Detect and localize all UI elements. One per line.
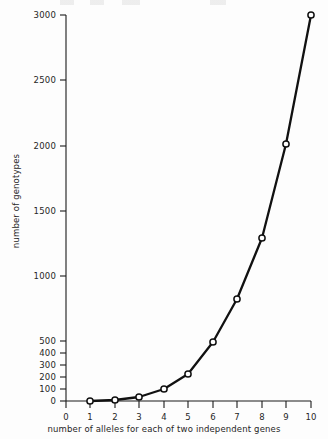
xtick-label-4: 4: [154, 412, 174, 422]
data-markers: [87, 12, 314, 404]
ytick-label-100: 100: [22, 384, 56, 394]
xtick-label-10: 10: [301, 412, 321, 422]
xtick-label-2: 2: [105, 412, 125, 422]
data-line: [90, 15, 311, 401]
chart-figure: 3000 2500 2000 1500 1000 500 400 300 200…: [0, 0, 328, 439]
ytick-label-2000: 2000: [22, 141, 56, 151]
xtick-label-6: 6: [203, 412, 223, 422]
ytick-label-200: 200: [22, 372, 56, 382]
ytick-label-400: 400: [22, 348, 56, 358]
xtick-label-1: 1: [80, 412, 100, 422]
ytick-label-2500: 2500: [22, 75, 56, 85]
y-tick-marks: [60, 15, 66, 401]
xtick-label-8: 8: [252, 412, 272, 422]
ytick-label-1500: 1500: [22, 206, 56, 216]
xtick-label-3: 3: [129, 412, 149, 422]
ytick-label-3000: 3000: [22, 10, 56, 20]
xtick-label-5: 5: [178, 412, 198, 422]
x-tick-marks: [66, 401, 311, 408]
ytick-label-500: 500: [22, 336, 56, 346]
ytick-label-1000: 1000: [22, 271, 56, 281]
ytick-label-300: 300: [22, 360, 56, 370]
xtick-label-0: 0: [56, 412, 76, 422]
y-axis-title: number of genotypes: [11, 141, 21, 261]
x-axis-title: number of alleles for each of two indepe…: [0, 424, 328, 434]
ytick-label-0: 0: [22, 396, 56, 406]
xtick-label-9: 9: [276, 412, 296, 422]
xtick-label-7: 7: [227, 412, 247, 422]
